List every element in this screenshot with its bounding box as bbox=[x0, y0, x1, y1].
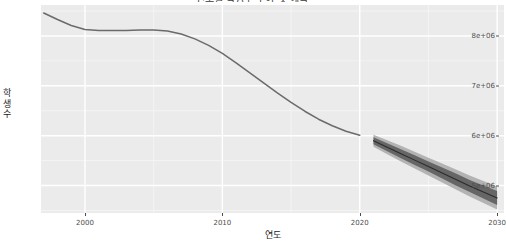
x-tick-label: 2000 bbox=[76, 219, 94, 227]
plot-panel bbox=[41, 5, 504, 213]
y-tick-label: 6e+06 bbox=[471, 132, 495, 140]
y-tick-mark bbox=[496, 185, 499, 186]
x-tick-mark bbox=[222, 213, 223, 216]
gridlines-layer bbox=[41, 5, 504, 213]
x-tick-mark bbox=[85, 213, 86, 216]
x-axis-title: 연도 bbox=[41, 230, 504, 241]
history-line bbox=[44, 13, 360, 135]
chart-title: 연도별 학생수 추이 및 예측 bbox=[0, 0, 504, 2]
y-tick-mark bbox=[496, 135, 499, 136]
y-tick-label: 7e+06 bbox=[471, 82, 495, 90]
y-tick-label: 8e+06 bbox=[471, 32, 495, 40]
plot-svg bbox=[41, 5, 504, 213]
y-tick-label: 5e+06 bbox=[471, 182, 495, 190]
y-axis-title: 학생수 bbox=[1, 88, 12, 120]
y-tick-mark bbox=[496, 85, 499, 86]
y-tick-mark bbox=[496, 35, 499, 36]
x-tick-label: 2030 bbox=[488, 219, 506, 227]
x-tick-label: 2010 bbox=[213, 219, 231, 227]
x-tick-mark bbox=[497, 213, 498, 216]
x-tick-label: 2020 bbox=[351, 219, 369, 227]
x-tick-mark bbox=[360, 213, 361, 216]
forecast-interval-80 bbox=[373, 137, 497, 205]
